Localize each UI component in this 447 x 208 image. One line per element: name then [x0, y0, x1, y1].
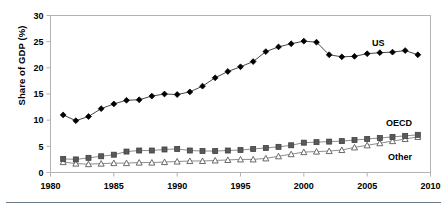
- chart-container: Share of GDP (%) 051015202530 1980198519…: [0, 0, 447, 208]
- data-point-marker: [238, 147, 243, 152]
- x-axis-ticks: 1980198519901995200020052010: [40, 173, 440, 191]
- data-point-marker: [86, 155, 91, 160]
- data-point-marker: [200, 149, 205, 154]
- y-tick-label-10: 10: [33, 115, 43, 125]
- x-tick-label-1980: 1980: [40, 181, 60, 191]
- data-point-marker: [99, 154, 104, 159]
- line-chart-plot: 051015202530 198019851990199520002005201…: [0, 0, 447, 208]
- y-tick-label-30: 30: [33, 11, 43, 21]
- data-point-marker: [251, 146, 256, 151]
- data-point-marker: [263, 145, 268, 150]
- data-point-marker: [111, 152, 116, 157]
- x-tick-label-2010: 2010: [420, 181, 440, 191]
- data-point-marker: [73, 157, 78, 162]
- x-tick-label-1990: 1990: [167, 181, 187, 191]
- data-point-marker: [61, 156, 66, 161]
- data-point-marker: [415, 132, 420, 137]
- data-point-marker: [327, 139, 332, 144]
- data-point-marker: [301, 140, 306, 145]
- data-point-marker: [390, 134, 395, 139]
- x-tick-label-2005: 2005: [357, 181, 377, 191]
- y-tick-label-5: 5: [38, 142, 43, 152]
- data-point-marker: [339, 139, 344, 144]
- x-tick-label-1985: 1985: [104, 181, 124, 191]
- data-point-marker: [365, 137, 370, 142]
- footer-divider: [6, 202, 441, 203]
- series-label-us: US: [372, 38, 385, 48]
- data-point-marker: [149, 148, 154, 153]
- x-tick-label-1995: 1995: [230, 181, 250, 191]
- data-point-marker: [175, 146, 180, 151]
- data-point-marker: [162, 147, 167, 152]
- data-point-marker: [225, 148, 230, 153]
- data-point-marker: [314, 140, 319, 145]
- data-point-marker: [352, 138, 357, 143]
- data-point-marker: [276, 144, 281, 149]
- data-point-marker: [137, 148, 142, 153]
- data-point-marker: [187, 148, 192, 153]
- series-label-oecd: OECD: [386, 118, 413, 128]
- y-tick-label-20: 20: [33, 63, 43, 73]
- data-point-marker: [377, 135, 382, 140]
- data-point-marker: [403, 133, 408, 138]
- data-point-marker: [124, 149, 129, 154]
- x-tick-label-2000: 2000: [294, 181, 314, 191]
- data-point-marker: [289, 143, 294, 148]
- y-tick-label-15: 15: [33, 89, 43, 99]
- series-label-other: Other: [388, 152, 413, 162]
- y-tick-label-25: 25: [33, 37, 43, 47]
- y-tick-label-0: 0: [38, 168, 43, 178]
- data-point-marker: [213, 149, 218, 154]
- y-axis-ticks: 051015202530: [33, 11, 50, 178]
